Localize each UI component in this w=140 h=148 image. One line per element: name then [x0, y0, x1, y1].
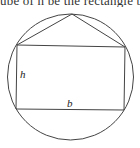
- height-label: h: [20, 68, 26, 80]
- triangle-roof: [17, 14, 125, 47]
- base-label: b: [67, 97, 73, 109]
- circumscribed-circle: [8, 14, 134, 140]
- geometry-figure: h b: [0, 0, 140, 148]
